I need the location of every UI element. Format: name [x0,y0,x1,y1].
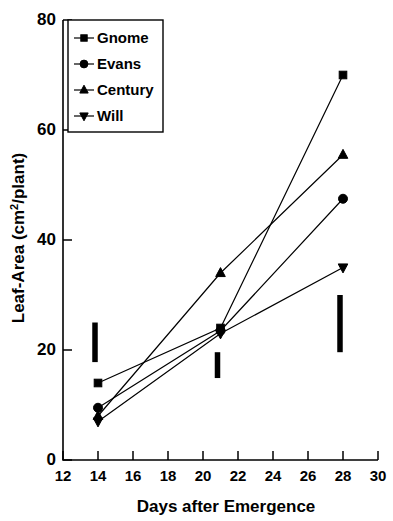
y-tick-label: 40 [37,230,56,249]
x-axis-ticks: 12141618202224262830 [55,451,387,484]
y-tick-label: 80 [37,10,56,29]
x-axis-title: Days after Emergence [137,497,316,516]
series-line [98,268,343,422]
legend-item-label: Will [97,107,124,124]
y-axis-title-prefix: Leaf-Area (cm [9,210,28,323]
chart-canvas: 020406080 12141618202224262830 Leaf-Area… [0,0,393,521]
x-tick-label: 28 [335,467,352,484]
x-tick-label: 26 [300,467,317,484]
data-point-circle [339,194,348,203]
data-point-circle [80,60,88,68]
leaf-area-chart: 020406080 12141618202224262830 Leaf-Area… [0,0,393,521]
error-bars [95,295,340,378]
svg-text:Leaf-Area (cm2/plant): Leaf-Area (cm2/plant) [8,153,28,324]
data-point-triangle-up [338,149,348,158]
data-point-square [94,379,102,387]
y-tick-label: 20 [37,340,56,359]
x-tick-label: 14 [90,467,107,484]
y-axis-title-suffix: /plant) [9,153,28,204]
x-tick-label: 12 [55,467,72,484]
data-point-square [81,35,87,41]
chart-legend: GnomeEvansCenturyWill [68,20,163,132]
x-tick-label: 18 [160,467,177,484]
x-tick-label: 30 [370,467,387,484]
x-tick-label: 24 [265,467,282,484]
y-axis-ticks: 020406080 [37,10,72,469]
data-point-square [339,71,347,79]
series-line [98,155,343,416]
data-point-triangle-down [338,264,348,273]
legend-item-label: Gnome [97,29,149,46]
x-tick-label: 16 [125,467,142,484]
y-axis-title: Leaf-Area (cm2/plant) [8,153,28,324]
data-point-triangle-down [93,418,103,427]
series-century [93,149,348,419]
y-tick-label: 60 [37,120,56,139]
series-evans [94,194,348,412]
series-line [98,199,343,408]
x-tick-label: 22 [230,467,247,484]
x-tick-label: 20 [195,467,212,484]
legend-item-label: Century [97,81,154,98]
series-will [93,264,348,427]
legend-item-label: Evans [97,55,141,72]
